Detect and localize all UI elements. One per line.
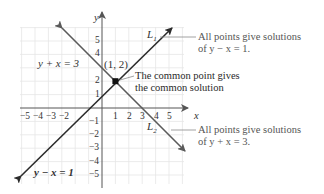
intersection-point — [112, 78, 118, 84]
x-tick: −2 — [59, 110, 69, 122]
x-axis-label: x — [194, 110, 199, 122]
point-label: (1, 2) — [104, 58, 128, 70]
x-tick: −4 — [33, 110, 43, 122]
y-tick: −4 — [89, 155, 99, 167]
y-tick: −3 — [89, 141, 99, 153]
y-tick: 1 — [95, 88, 100, 100]
x-tick: −5 — [20, 110, 30, 122]
y-tick: 5 — [95, 34, 100, 46]
y-tick: −5 — [89, 168, 99, 180]
x-tick: 4 — [154, 110, 159, 122]
annotation-common-point: The common point gives the common soluti… — [135, 70, 240, 94]
coordinate-plane — [0, 0, 324, 194]
y-axis-label: y — [94, 12, 99, 24]
x-tick: 1 — [113, 110, 118, 122]
y-tick: −2 — [89, 128, 99, 140]
y-tick: 2 — [95, 74, 100, 86]
label-L1: L1 — [147, 28, 157, 45]
annotation-L2: All points give solutions of y + x = 3. — [198, 124, 301, 148]
x-tick: 3 — [140, 110, 145, 122]
equation-L1: y − x = 1 — [34, 166, 74, 178]
label-L2: L2 — [147, 120, 157, 137]
y-tick: 4 — [95, 47, 100, 59]
x-tick: 2 — [127, 110, 132, 122]
equation-L2: y + x = 3 — [38, 57, 79, 69]
annotation-L1: All points give solutions of y − x = 1. — [198, 31, 301, 55]
x-tick: 5 — [167, 110, 172, 122]
x-tick: −3 — [46, 110, 56, 122]
y-tick: −1 — [89, 115, 99, 127]
